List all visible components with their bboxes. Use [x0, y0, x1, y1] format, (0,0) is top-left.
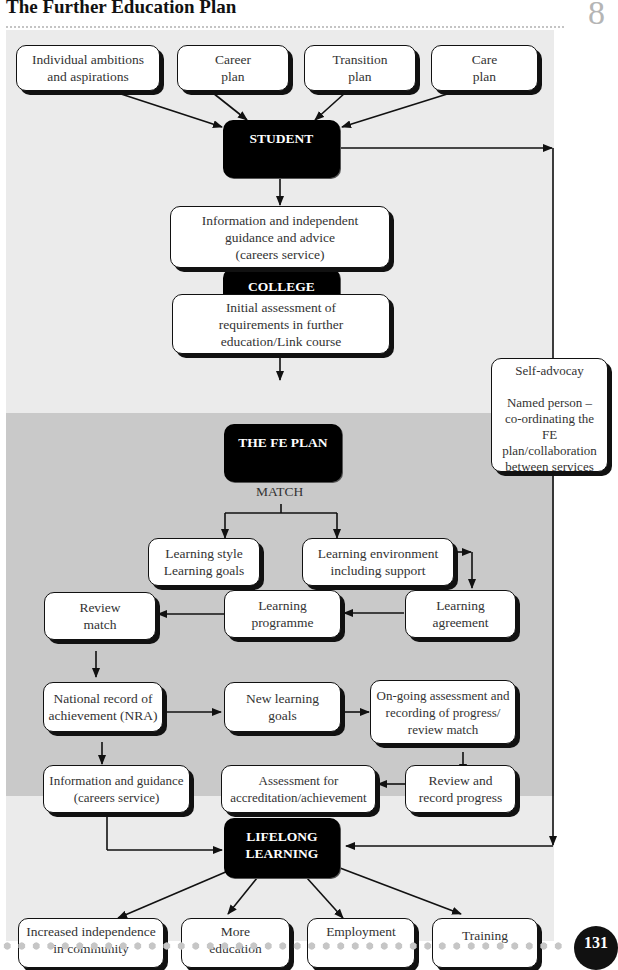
- input-care-plan: Care plan: [431, 45, 538, 91]
- node-nra: National record of achievement (NRA): [43, 682, 163, 732]
- node-learning-style: Learning style Learning goals: [148, 538, 260, 586]
- input-ambitions: Individual ambitions and aspirations: [16, 45, 160, 91]
- node-ongoing-assessment: On-going assessment and recording of pro…: [370, 680, 516, 744]
- match-label: MATCH: [256, 484, 303, 500]
- node-initial-assessment: Initial assessment of requirements in fu…: [172, 294, 390, 354]
- node-info-guidance-advice: Information and independent guidance and…: [170, 206, 390, 268]
- node-review-record-progress: Review and record progress: [405, 765, 516, 813]
- hub-fe-plan: THE FE PLAN: [224, 424, 342, 482]
- node-learning-agreement: Learning agreement: [405, 590, 516, 638]
- input-career-plan: Career plan: [177, 45, 289, 91]
- hub-lifelong-learning: LIFELONG LEARNING: [224, 818, 340, 878]
- node-new-learning-goals: New learning goals: [224, 682, 341, 732]
- node-review-match: Review match: [44, 592, 156, 640]
- page-number-badge: 131: [574, 926, 618, 970]
- node-self-advocacy: Self-advocay Named person – co-ordinatin…: [491, 358, 608, 472]
- input-transition-plan: Transition plan: [304, 45, 416, 91]
- node-info-guidance-careers: Information and guidance (careers servic…: [43, 765, 190, 813]
- node-learning-programme: Learning programme: [224, 590, 341, 638]
- bottom-dotted-divider: [0, 941, 565, 951]
- node-learning-environment: Learning environment including support: [302, 538, 454, 586]
- node-assessment-accreditation: Assessment for accreditation/achievement: [221, 765, 376, 813]
- hub-student: STUDENT: [223, 120, 340, 178]
